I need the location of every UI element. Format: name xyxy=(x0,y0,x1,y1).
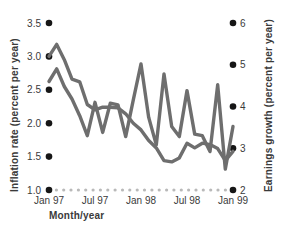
baseline-dotted-axis xyxy=(47,188,234,191)
baseline-dot xyxy=(77,188,80,191)
left-tick-dot xyxy=(46,120,53,127)
left-axis-ticks: 3.53.02.52.01.51.0 xyxy=(27,18,52,196)
baseline-dot xyxy=(216,188,219,191)
right-tick-dot xyxy=(230,20,237,27)
left-tick-dot xyxy=(46,187,53,194)
baseline-dot xyxy=(55,188,58,191)
baseline-dot xyxy=(143,188,146,191)
left-tick-label: 3.0 xyxy=(27,51,41,62)
baseline-dot xyxy=(84,188,87,191)
x-axis-title: Month/year xyxy=(49,210,104,221)
right-tick-dot xyxy=(230,103,237,110)
right-tick-dot xyxy=(230,62,237,69)
x-tick-label: Jul 98 xyxy=(174,195,201,206)
right-axis-title: Earnings growth (percent per year) xyxy=(263,19,274,192)
x-tick-label: Jan 98 xyxy=(126,195,156,206)
right-tick-label: 5 xyxy=(240,59,246,70)
baseline-dot xyxy=(194,188,197,191)
baseline-dot xyxy=(150,188,153,191)
left-axis-title: Inflation rate (percent per year) xyxy=(9,38,20,192)
right-tick-label: 6 xyxy=(240,18,246,29)
left-tick-label: 1.0 xyxy=(27,185,41,196)
right-tick-dot xyxy=(230,187,237,194)
baseline-dot xyxy=(114,188,117,191)
baseline-dot xyxy=(62,188,65,191)
baseline-dot xyxy=(136,188,139,191)
baseline-dot xyxy=(202,188,205,191)
baseline-dot xyxy=(106,188,109,191)
chart-container: 3.53.02.52.01.51.0 65432 Jan 97Jul 97Jan… xyxy=(0,0,284,230)
right-tick-label: 3 xyxy=(240,143,246,154)
baseline-dot xyxy=(69,188,72,191)
baseline-dot xyxy=(165,188,168,191)
left-tick-label: 3.5 xyxy=(27,18,41,29)
baseline-dot xyxy=(158,188,161,191)
data-series-group xyxy=(49,44,233,169)
x-tick-label: Jan 97 xyxy=(34,195,64,206)
left-tick-label: 2.5 xyxy=(27,84,41,95)
left-tick-dot xyxy=(46,153,53,160)
right-axis-ticks: 65432 xyxy=(230,18,246,196)
left-tick-dot xyxy=(46,20,53,27)
baseline-dot xyxy=(99,188,102,191)
x-tick-label: Jan 99 xyxy=(218,195,248,206)
left-tick-label: 1.5 xyxy=(27,151,41,162)
baseline-dot xyxy=(180,188,183,191)
baseline-dot xyxy=(224,188,227,191)
chart-svg: 3.53.02.52.01.51.0 65432 Jan 97Jul 97Jan… xyxy=(0,0,284,230)
right-tick-label: 2 xyxy=(240,185,246,196)
baseline-dot xyxy=(92,188,95,191)
baseline-dot xyxy=(128,188,131,191)
right-tick-label: 4 xyxy=(240,101,246,112)
left-tick-label: 2.0 xyxy=(27,118,41,129)
left-tick-dot xyxy=(46,87,53,94)
x-axis-tick-labels: Jan 97Jul 97Jan 98Jul 98Jan 99 xyxy=(34,195,248,206)
baseline-dot xyxy=(187,188,190,191)
baseline-dot xyxy=(121,188,124,191)
x-tick-label: Jul 97 xyxy=(82,195,109,206)
baseline-dot xyxy=(209,188,212,191)
baseline-dot xyxy=(172,188,175,191)
